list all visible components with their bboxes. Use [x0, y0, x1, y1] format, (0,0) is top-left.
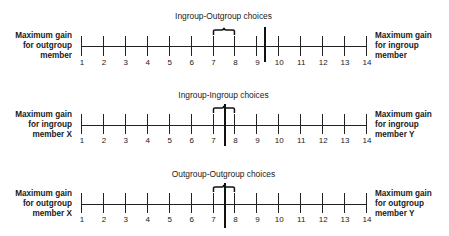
scale-tick-label: 5	[167, 136, 171, 145]
scale-tick-label: 2	[102, 136, 106, 145]
scale-tick-label: 4	[146, 58, 150, 67]
scale-tick	[300, 36, 301, 56]
panel-title: Ingroup-Outgroup choices	[175, 11, 272, 21]
scale-tick	[81, 36, 82, 56]
scale-tick-label: 9	[255, 136, 259, 145]
left-label-line: member X	[0, 209, 72, 219]
scale-tick-label: 11	[297, 58, 305, 67]
left-label-line: Maximum gain	[0, 189, 72, 199]
right-label-line: member Y	[375, 209, 449, 219]
scale-tick	[278, 114, 279, 134]
scale-tick-label: 9	[255, 215, 259, 224]
scale-tick	[147, 193, 148, 213]
right-label-line: member Y	[375, 130, 449, 140]
scale-tick-label: 10	[275, 58, 284, 67]
scale-tick-label: 5	[167, 215, 171, 224]
scale-tick	[147, 114, 148, 134]
curly-brace-icon	[213, 28, 237, 36]
right-label-line: for ingroup	[375, 41, 449, 51]
right-label-line: for ingroup	[375, 120, 449, 130]
scale-tick-label: 14	[363, 58, 372, 67]
scale-tick	[234, 193, 235, 213]
choice-marker	[224, 104, 226, 146]
scale-tick-label: 7	[211, 215, 215, 224]
scale-tick-label: 6	[189, 136, 193, 145]
scale-tick-label: 12	[319, 215, 328, 224]
scale-tick-label: 3	[124, 215, 128, 224]
scale-tick-label: 1	[80, 215, 84, 224]
scale-tick-label: 13	[341, 136, 350, 145]
scale-tick-label: 11	[297, 215, 305, 224]
scale-tick-label: 8	[233, 215, 237, 224]
right-label-line: Maximum gain	[375, 189, 449, 199]
left-label-line: Maximum gain	[0, 110, 72, 120]
scale-tick-label: 13	[341, 215, 350, 224]
scale-tick-label: 13	[341, 58, 350, 67]
scale-tick	[344, 114, 345, 134]
scale-tick-label: 7	[211, 136, 215, 145]
scale-tick-label: 9	[255, 58, 259, 67]
scale-tick	[213, 193, 214, 213]
scale-tick	[191, 193, 192, 213]
scale-tick-label: 4	[146, 136, 150, 145]
scale-tick	[366, 193, 367, 213]
scale-tick-label: 10	[275, 136, 284, 145]
scale-tick-label: 7	[211, 58, 215, 67]
scale-tick-label: 4	[146, 215, 150, 224]
left-endpoint-label: Maximum gainfor outgroupmember X	[0, 189, 72, 219]
scale-tick	[366, 114, 367, 134]
scale-tick	[147, 36, 148, 56]
scale-tick	[125, 193, 126, 213]
scale-tick	[234, 114, 235, 134]
scale-tick	[169, 114, 170, 134]
scale-tick-label: 12	[319, 136, 328, 145]
scale-tick	[278, 36, 279, 56]
scale-tick	[256, 36, 257, 56]
scale-axis-line	[81, 46, 367, 47]
left-label-line: for outgroup	[0, 199, 72, 209]
scale-tick	[169, 36, 170, 56]
right-label-line: member	[375, 51, 449, 61]
scale-tick-label: 14	[363, 136, 372, 145]
scale-tick	[278, 193, 279, 213]
scale-tick	[213, 114, 214, 134]
scale-tick	[256, 193, 257, 213]
right-endpoint-label: Maximum gainfor outgroupmember Y	[375, 189, 449, 219]
scale-tick-label: 6	[189, 58, 193, 67]
scale-tick	[322, 36, 323, 56]
scale-tick	[300, 114, 301, 134]
scale-tick-label: 3	[124, 58, 128, 67]
scale-tick	[322, 193, 323, 213]
left-label-line: member	[0, 51, 72, 61]
scale-tick	[125, 114, 126, 134]
right-label-line: for outgroup	[375, 199, 449, 209]
scale-tick	[125, 36, 126, 56]
scale-tick	[81, 193, 82, 213]
scale-tick	[191, 36, 192, 56]
right-label-line: Maximum gain	[375, 110, 449, 120]
scale-tick-label: 5	[167, 58, 171, 67]
scale-tick-label: 1	[80, 136, 84, 145]
scale-tick-label: 3	[124, 136, 128, 145]
scale-tick	[213, 36, 214, 56]
left-label-line: member X	[0, 130, 72, 140]
scale-tick	[366, 36, 367, 56]
right-endpoint-label: Maximum gainfor ingroupmember	[375, 31, 449, 61]
choice-marker	[264, 27, 266, 62]
left-endpoint-label: Maximum gainfor outgroupmember	[0, 31, 72, 61]
panel-title: Outgroup-Outgroup choices	[172, 169, 275, 179]
scale-tick	[103, 36, 104, 56]
scale-tick	[322, 114, 323, 134]
scale-tick-label: 6	[189, 215, 193, 224]
scale-tick	[344, 193, 345, 213]
right-label-line: Maximum gain	[375, 31, 449, 41]
scale-tick-label: 8	[233, 136, 237, 145]
scale-tick	[169, 193, 170, 213]
choice-marker	[224, 183, 226, 228]
scale-tick	[103, 114, 104, 134]
scale-tick	[256, 114, 257, 134]
panel-title: Ingroup-Ingroup choices	[178, 90, 268, 100]
scale-tick-label: 2	[102, 58, 106, 67]
scale-tick-label: 14	[363, 215, 372, 224]
scale-tick-label: 8	[233, 58, 237, 67]
